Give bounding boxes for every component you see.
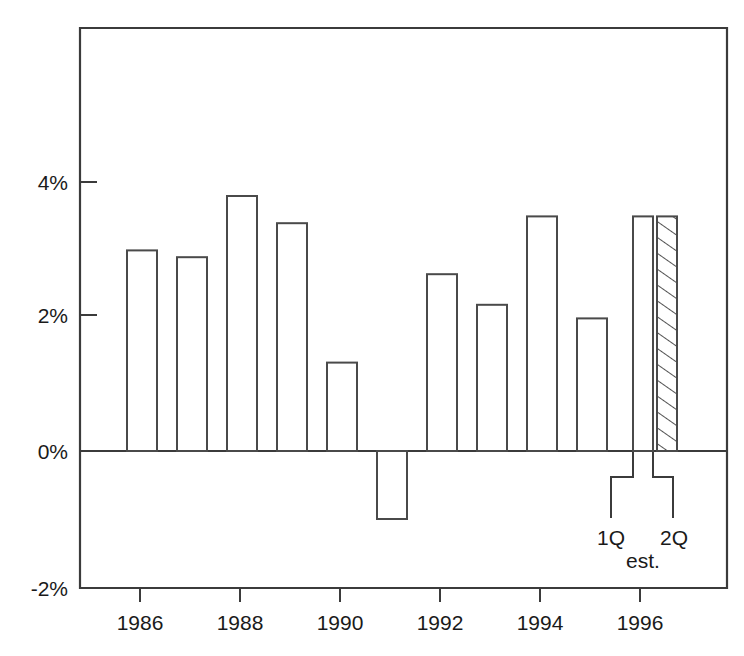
y-tick-label-2: 2% — [38, 304, 68, 327]
bar-1986 — [127, 250, 157, 451]
x-tick-label-1996: 1996 — [617, 611, 664, 634]
x-axis-labels: 1986 1988 1990 1992 1994 1996 — [117, 611, 664, 634]
bar-series — [127, 196, 677, 519]
bar-1992 — [427, 274, 457, 451]
leader-1q — [611, 452, 633, 518]
label-est: est. — [626, 549, 660, 572]
x-tick-label-1990: 1990 — [317, 611, 364, 634]
x-axis-ticks — [140, 588, 640, 602]
leader-2q — [653, 452, 673, 518]
annotation-labels: 1Q 2Q est. — [597, 526, 688, 572]
bar-1995 — [577, 318, 607, 451]
bar-1988 — [227, 196, 257, 451]
x-tick-label-1988: 1988 — [217, 611, 264, 634]
bar-1Q — [633, 216, 653, 451]
bar-1994 — [527, 216, 557, 451]
bar-1993 — [477, 305, 507, 451]
x-tick-label-1992: 1992 — [417, 611, 464, 634]
bar-2Q — [657, 216, 677, 451]
x-tick-label-1994: 1994 — [517, 611, 564, 634]
bar-1990 — [327, 363, 357, 451]
bar-1991 — [377, 451, 407, 519]
bar-1987 — [177, 257, 207, 451]
y-tick-label-4: 4% — [38, 171, 68, 194]
chart-container: 4% 2% 0% -2% 1986 1988 1990 1992 1994 19… — [0, 0, 744, 656]
y-tick-label-neg2: -2% — [31, 577, 68, 600]
annotation-leaders — [611, 452, 673, 518]
label-2q: 2Q — [660, 526, 688, 549]
y-tick-label-0: 0% — [38, 440, 68, 463]
bar-1989 — [277, 223, 307, 451]
y-axis-labels: 4% 2% 0% -2% — [31, 171, 68, 600]
x-tick-label-1986: 1986 — [117, 611, 164, 634]
bar-chart: 4% 2% 0% -2% 1986 1988 1990 1992 1994 19… — [0, 0, 744, 656]
label-1q: 1Q — [597, 526, 625, 549]
